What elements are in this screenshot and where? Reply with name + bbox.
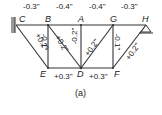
force-CB: -0.3" bbox=[23, 3, 40, 11]
force-AD: -0.2" bbox=[71, 28, 79, 45]
force-ED: +0.3" bbox=[54, 73, 73, 81]
figure-caption: (a) bbox=[75, 89, 86, 98]
node-D-label: D bbox=[77, 70, 84, 79]
force-BE: -0.1" bbox=[40, 34, 48, 51]
force-DF: +0.3" bbox=[89, 73, 108, 81]
force-GF: -0.1" bbox=[113, 34, 121, 51]
node-C-label: C bbox=[19, 15, 26, 24]
node-G-label: G bbox=[110, 15, 117, 24]
force-BA: -0.4" bbox=[56, 3, 73, 11]
force-GH: -0.3" bbox=[121, 3, 138, 11]
force-AG: -0.4" bbox=[89, 3, 106, 11]
node-A-label: A bbox=[78, 15, 84, 24]
fixed-support-icon bbox=[11, 17, 15, 33]
pin-support-icon bbox=[139, 25, 153, 33]
node-E-label: E bbox=[40, 70, 46, 79]
node-F-label: F bbox=[114, 70, 120, 79]
node-H-label: H bbox=[142, 15, 149, 24]
node-B-label: B bbox=[45, 15, 51, 24]
